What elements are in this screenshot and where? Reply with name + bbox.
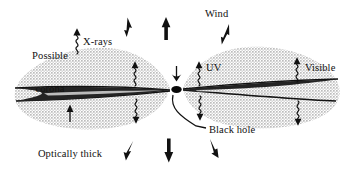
label-wind: Wind — [205, 8, 228, 19]
label-uv: UV — [206, 62, 221, 73]
label-visible: Visible — [305, 62, 335, 73]
label-possible-corona-line1: Possible — [22, 50, 78, 61]
wind-arrow-bottom-left — [124, 141, 134, 161]
infall-arrow — [172, 66, 182, 82]
wind-arrow-bottom-center — [164, 139, 173, 163]
label-optically-thick-disc-line1: Optically thick — [22, 148, 118, 159]
wind-arrow-top-center — [162, 17, 171, 40]
label-possible-corona-line2: corona — [22, 83, 78, 94]
label-xrays: X-rays — [83, 36, 112, 47]
label-optically-thick-disc: Optically thick disc — [22, 126, 118, 172]
label-possible-corona: Possible corona — [22, 28, 78, 116]
wind-arrow-top-left — [124, 18, 132, 38]
black-hole-dot — [171, 86, 181, 93]
label-black-hole: Black hole — [209, 124, 255, 135]
wind-arrow-bottom-right — [210, 139, 219, 158]
accretion-disc-diagram: Possible corona X-rays Wind UV Visible B… — [0, 0, 353, 172]
wind-arrow-top-right — [221, 24, 229, 45]
